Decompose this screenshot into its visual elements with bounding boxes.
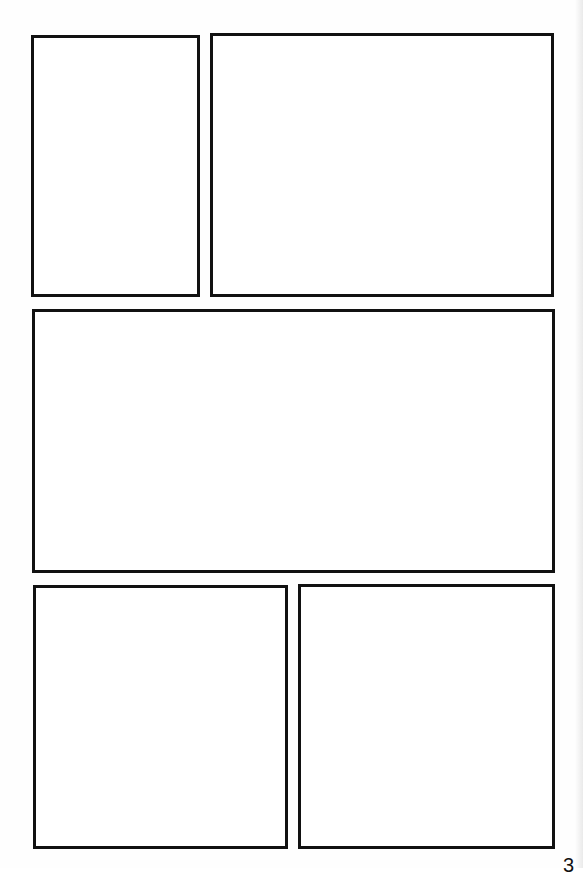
panel-1 — [31, 35, 200, 297]
panel-3 — [32, 309, 555, 573]
panel-5 — [298, 584, 555, 849]
page-number: 3 — [563, 855, 574, 875]
panel-4 — [33, 585, 288, 849]
page-edge-shadow — [575, 0, 583, 868]
panel-2 — [210, 33, 554, 297]
